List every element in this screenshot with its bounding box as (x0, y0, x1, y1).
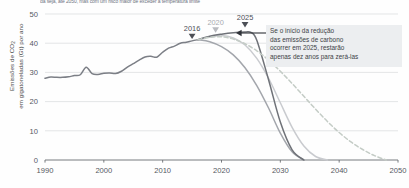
marker-label-2016: 2016 (184, 24, 200, 33)
annotation-arrow (236, 30, 266, 36)
y-tick-10: 10 (30, 127, 38, 136)
emissions-chart: da seja, até 2050, mas com um risco maio… (0, 0, 409, 188)
y-tick-0: 0 (34, 156, 38, 165)
x-axis-group (45, 160, 398, 163)
x-tick-2030: 2030 (272, 166, 289, 175)
x-tick-2000: 2000 (95, 166, 112, 175)
x-tick-2020: 2020 (213, 166, 230, 175)
x-tick-2010: 2010 (154, 166, 171, 175)
y-tick-labels-group: 01020304050 (30, 10, 38, 165)
marker-label-2020: 2020 (207, 18, 223, 27)
marker-label-2025: 2025 (237, 13, 253, 22)
annotation-line-3: ocorrer em 2025, restarão (270, 44, 344, 51)
x-tick-1990: 1990 (37, 166, 54, 175)
x-tick-2050: 2050 (390, 166, 407, 175)
y-tick-30: 30 (30, 68, 38, 77)
x-tick-labels-group: 1990200020102020203020402050 (37, 166, 407, 175)
marker-triangle-2016 (189, 34, 196, 39)
annotation-text: Se o início da redução das emissões de c… (270, 27, 402, 62)
annotation-line-4: apenas dez anos para zerá-las (270, 53, 358, 60)
annotation-line-2: das emissões de carbono (270, 36, 343, 43)
y-tick-40: 40 (30, 39, 38, 48)
y-tick-20: 20 (30, 97, 38, 106)
y-tick-50: 50 (30, 10, 38, 19)
marker-triangle-2020 (212, 27, 219, 32)
marker-triangle-2025 (242, 22, 249, 27)
annotation-line-1: Se o início da redução (270, 27, 334, 34)
x-tick-2040: 2040 (331, 166, 348, 175)
